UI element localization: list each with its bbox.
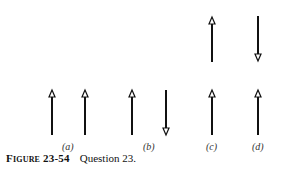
panel-label-a: (a) [62,141,74,152]
arrow-b-left-up [129,90,135,135]
arrow-d-lower-up [255,90,261,135]
arrow-c-upper-up [209,17,215,62]
panel-label-b: (b) [143,141,155,152]
arrow-d-upper-down [255,16,261,61]
arrow-a-left-up [49,90,55,135]
figure-caption: Figure 23-54Question 23. [6,152,136,164]
arrow-a-right-up [82,90,88,135]
figure-caption-text: Question 23. [80,152,136,164]
arrow-diagram [0,0,282,175]
panel-label-c: (c) [206,141,217,152]
arrow-c-lower-up [209,90,215,135]
figure-number: Figure 23-54 [6,152,70,164]
arrow-b-right-down [163,90,169,135]
panel-label-d: (d) [252,141,264,152]
